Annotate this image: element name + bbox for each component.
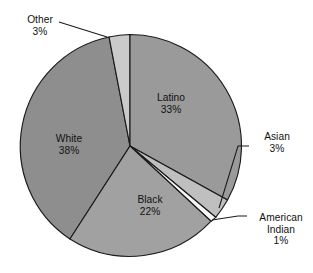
slice-label-american-indian: American Indian 1%	[250, 212, 312, 247]
slice-label-american-indian-name-line2: Indian	[250, 224, 312, 236]
slice-label-american-indian-name: American	[250, 212, 312, 224]
pie-chart-figure: Latino 33% White 38% Black 22% Other 3% …	[0, 0, 313, 273]
slice-label-other: Other 3%	[14, 14, 66, 37]
slice-label-black: Black 22%	[125, 194, 175, 217]
slice-label-latino-name: Latino	[143, 92, 199, 104]
slice-label-other-name: Other	[14, 14, 66, 26]
slice-label-black-value: 22%	[125, 206, 175, 218]
slice-label-other-value: 3%	[14, 26, 66, 38]
slice-label-asian-value: 3%	[252, 143, 302, 155]
leader-line-american-indian	[212, 216, 247, 220]
slice-label-american-indian-value: 1%	[250, 235, 312, 247]
slice-label-white: White 38%	[44, 133, 94, 156]
slice-label-white-value: 38%	[44, 145, 94, 157]
slice-label-black-name: Black	[125, 194, 175, 206]
slice-label-asian-name: Asian	[252, 131, 302, 143]
leader-line-other	[59, 22, 107, 37]
slice-label-latino: Latino 33%	[143, 92, 199, 115]
slice-label-white-name: White	[44, 133, 94, 145]
slice-label-asian: Asian 3%	[252, 131, 302, 154]
slice-label-latino-value: 33%	[143, 104, 199, 116]
